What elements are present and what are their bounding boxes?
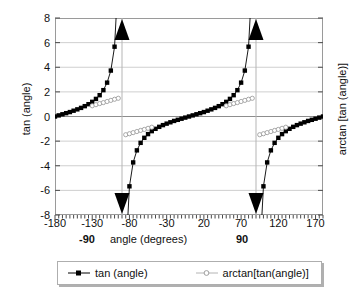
chart-legend: tan (angle) arctan[tan(angle)] (57, 261, 322, 285)
data-point (250, 96, 254, 100)
data-point (235, 88, 239, 92)
y-tick-label: -2 (24, 135, 50, 147)
data-point (109, 68, 113, 72)
data-point (105, 80, 109, 84)
data-point (272, 141, 276, 145)
legend-entry-arctan[interactable]: arctan[tan(angle)] (196, 267, 309, 279)
data-point (243, 68, 247, 72)
y-tick-label: 4 (24, 61, 50, 73)
legend-entry-tan[interactable]: tan (angle) (68, 267, 148, 279)
data-point (321, 114, 325, 118)
series-line-0 (260, 117, 323, 258)
y-axis-label-right: arctan [tan (angle)] (336, 39, 348, 179)
plot-area (55, 18, 323, 215)
legend-label-arctan: arctan[tan(angle)] (223, 267, 309, 279)
chart-figure: tan (angle) arctan [tan (angle)] angle (… (0, 0, 362, 299)
data-point (97, 93, 101, 97)
data-point (246, 44, 250, 48)
asymptote-down-arrow-icon (115, 193, 130, 214)
plot-canvas (55, 18, 323, 215)
y-tick-label: 6 (24, 37, 50, 49)
y-tick-label: 2 (24, 86, 50, 98)
data-point (261, 184, 265, 188)
data-point (112, 44, 116, 48)
data-point (231, 93, 235, 97)
open-circle-marker-icon (196, 268, 218, 278)
data-point (138, 141, 142, 145)
legend-label-tan: tan (angle) (95, 267, 148, 279)
data-point (135, 148, 139, 152)
data-point (131, 160, 135, 164)
data-point (116, 96, 120, 100)
x-tick-label-asymptote-negative: -90 (79, 233, 95, 245)
data-point (269, 148, 273, 152)
y-axis-tick-labels: 86420-2-4-6-8 (22, 0, 50, 299)
data-point (265, 160, 269, 164)
asymptote-up-arrow-icon (249, 19, 264, 40)
x-axis-label: angle (degrees) (110, 233, 187, 245)
asymptote-down-arrow-icon (249, 193, 264, 214)
y-tick-label: -6 (24, 184, 50, 196)
asymptote-up-arrow-icon (115, 19, 130, 40)
data-point (101, 88, 105, 92)
filled-square-marker-icon (68, 268, 90, 278)
y-tick-label: -4 (24, 160, 50, 172)
data-point (127, 184, 131, 188)
data-point (284, 125, 288, 129)
x-tick-label-asymptote-positive: 90 (236, 233, 248, 245)
y-tick-label: 0 (24, 111, 50, 123)
data-point (239, 80, 243, 84)
y-tick-label: 8 (24, 12, 50, 24)
data-point (150, 125, 154, 129)
